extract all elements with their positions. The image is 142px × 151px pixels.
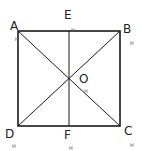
mark-1: H: [15, 36, 19, 42]
mark-4: H: [84, 88, 88, 94]
mark-2: H: [71, 27, 75, 33]
mark-5: H: [12, 143, 16, 149]
mark-6: H: [69, 145, 73, 151]
label-o: O: [79, 72, 88, 86]
label-c: C: [124, 124, 132, 138]
geometry-diagram: A E B O D F C H H H H H H H: [0, 0, 142, 151]
label-b: B: [123, 22, 131, 36]
mark-7: H: [130, 142, 134, 148]
label-a: A: [10, 19, 19, 33]
mark-3: H: [130, 40, 134, 46]
label-e: E: [64, 8, 72, 22]
label-f: F: [64, 128, 71, 142]
label-d: D: [5, 127, 14, 141]
